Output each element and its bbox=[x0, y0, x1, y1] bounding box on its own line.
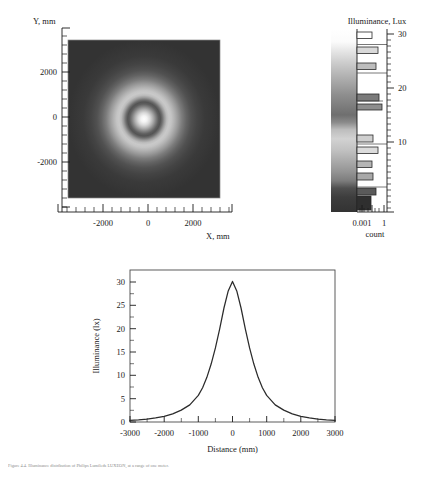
profile-x-ticklabel-3000: 3000 bbox=[327, 428, 344, 438]
figure-illuminance-distribution: Y, mm bbox=[0, 0, 432, 477]
histogram-bar bbox=[357, 135, 373, 142]
lux-ticklabel-20: 20 bbox=[398, 83, 407, 93]
profile-x-ticklabel-2000: 2000 bbox=[292, 428, 309, 438]
histogram-bar bbox=[357, 94, 379, 101]
profile-plot-frame bbox=[130, 270, 335, 422]
histogram-bar bbox=[357, 147, 378, 154]
histogram-bar bbox=[357, 196, 371, 210]
lux-major-ticks bbox=[387, 34, 394, 142]
histogram-bar bbox=[357, 188, 376, 195]
profile-y-ticklabel-20: 20 bbox=[117, 324, 126, 334]
lux-ticklabel-30: 30 bbox=[398, 29, 407, 39]
map-y-minor-ticks bbox=[62, 36, 67, 207]
profile-y-ticklabel-30: 30 bbox=[117, 277, 126, 287]
count-axis-title: count bbox=[366, 229, 386, 239]
illuminance-profile-panel: 0 5 10 15 20 25 30 Illuminance (lx) -300… bbox=[0, 258, 432, 468]
map-y-ticklabel-2000: 2000 bbox=[40, 67, 57, 77]
histogram-bar bbox=[357, 104, 382, 110]
map-x-axis-title: X, mm bbox=[206, 231, 230, 241]
colorbar-title: Illuminance, Lux bbox=[348, 16, 407, 26]
profile-y-ticklabel-15: 15 bbox=[117, 347, 126, 357]
histogram-plot-background bbox=[357, 29, 387, 212]
count-ticklabel-1: 1 bbox=[382, 218, 386, 228]
profile-x-ticklabel-minus2000: -2000 bbox=[154, 428, 174, 438]
profile-y-ticklabel-0: 0 bbox=[121, 417, 125, 427]
profile-x-ticklabel-0: 0 bbox=[230, 428, 234, 438]
figure-caption: Figure 4.4. Illuminance distribution of … bbox=[8, 463, 424, 476]
illuminance-map-image bbox=[68, 40, 220, 198]
map-y-axis-title: Y, mm bbox=[33, 16, 56, 26]
profile-x-ticklabel-minus3000: -3000 bbox=[120, 428, 140, 438]
histogram-bar bbox=[357, 161, 372, 168]
colorbar-gradient-strip bbox=[331, 29, 357, 212]
profile-x-ticklabel-minus1000: -1000 bbox=[188, 428, 208, 438]
map-x-ticklabel-minus2000: -2000 bbox=[93, 218, 113, 228]
histogram-bar bbox=[357, 63, 376, 70]
lux-minor-ticks bbox=[387, 40, 391, 208]
lux-ticklabel-10: 10 bbox=[398, 137, 407, 147]
colorbar-histogram-panel: Illuminance, Lux bbox=[331, 16, 407, 239]
count-ticklabel-0.001: 0.001 bbox=[352, 218, 371, 228]
histogram-bar bbox=[357, 47, 378, 54]
profile-y-ticklabel-10: 10 bbox=[117, 370, 126, 380]
illuminance-map-panel: Y, mm bbox=[33, 16, 232, 241]
map-x-major-ticks bbox=[58, 204, 232, 212]
profile-y-ticklabel-5: 5 bbox=[121, 394, 125, 404]
histogram-bar bbox=[357, 173, 373, 180]
top-row-panels: Y, mm bbox=[0, 0, 432, 250]
profile-x-axis-title: Distance (mm) bbox=[207, 444, 258, 454]
map-x-ticklabel-2000: 2000 bbox=[185, 218, 202, 228]
profile-y-axis-title: Illuminance (lx) bbox=[91, 318, 101, 373]
map-y-ticklabel-minus2000: -2000 bbox=[37, 157, 57, 167]
map-y-ticklabel-0: 0 bbox=[53, 112, 57, 122]
histogram-bar bbox=[357, 32, 372, 39]
map-x-ticklabel-0: 0 bbox=[146, 218, 150, 228]
profile-x-ticklabel-1000: 1000 bbox=[258, 428, 275, 438]
profile-y-ticklabel-25: 25 bbox=[117, 300, 126, 310]
